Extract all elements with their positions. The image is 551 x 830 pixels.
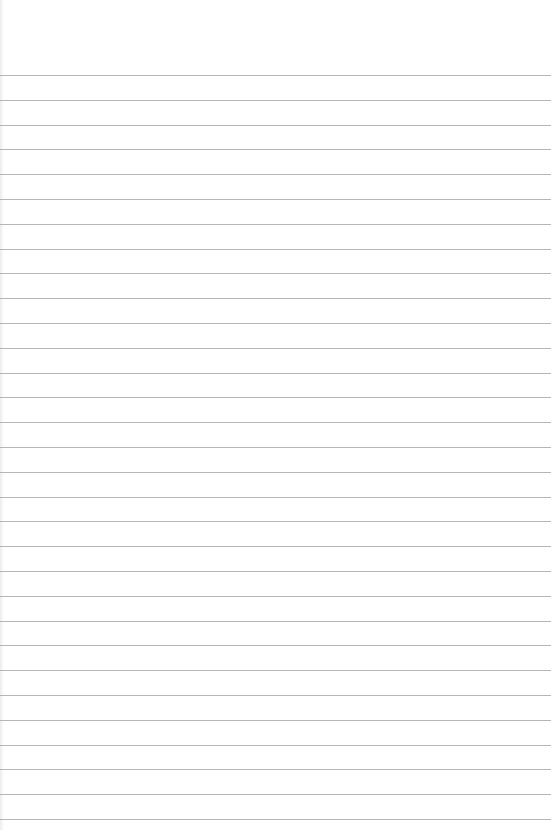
ruled-line: [0, 323, 551, 324]
ruled-line: [0, 720, 551, 721]
ruled-line: [0, 100, 551, 101]
ruled-line: [0, 397, 551, 398]
ruled-line: [0, 645, 551, 646]
lined-paper-sheet: [0, 0, 551, 830]
ruled-line: [0, 521, 551, 522]
ruled-line: [0, 695, 551, 696]
ruled-line: [0, 670, 551, 671]
ruled-line: [0, 596, 551, 597]
ruled-line: [0, 224, 551, 225]
ruled-line: [0, 273, 551, 274]
ruled-line: [0, 447, 551, 448]
ruled-line: [0, 571, 551, 572]
ruled-line: [0, 298, 551, 299]
ruled-line: [0, 769, 551, 770]
ruled-line: [0, 422, 551, 423]
ruled-line: [0, 546, 551, 547]
ruled-line: [0, 472, 551, 473]
ruled-line: [0, 174, 551, 175]
ruled-line: [0, 149, 551, 150]
ruled-line: [0, 348, 551, 349]
ruled-line: [0, 794, 551, 795]
ruled-line: [0, 621, 551, 622]
ruled-line: [0, 819, 551, 820]
ruled-line: [0, 249, 551, 250]
ruled-line: [0, 373, 551, 374]
ruled-line: [0, 199, 551, 200]
ruled-line: [0, 497, 551, 498]
ruled-line: [0, 745, 551, 746]
ruled-line: [0, 125, 551, 126]
ruled-line: [0, 75, 551, 76]
